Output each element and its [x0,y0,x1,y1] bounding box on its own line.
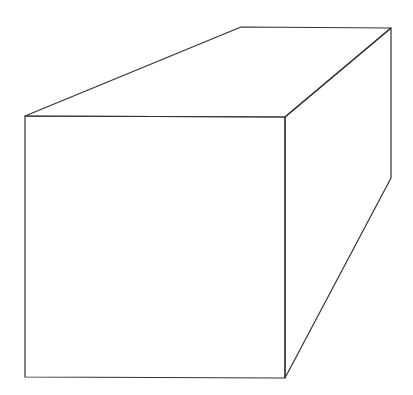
cuboid-drawing [0,0,413,395]
front-face [25,116,285,378]
right-side-face [285,28,391,378]
diagram-canvas [0,0,413,395]
cuboid-edges [25,27,391,378]
top-face [25,27,391,117]
